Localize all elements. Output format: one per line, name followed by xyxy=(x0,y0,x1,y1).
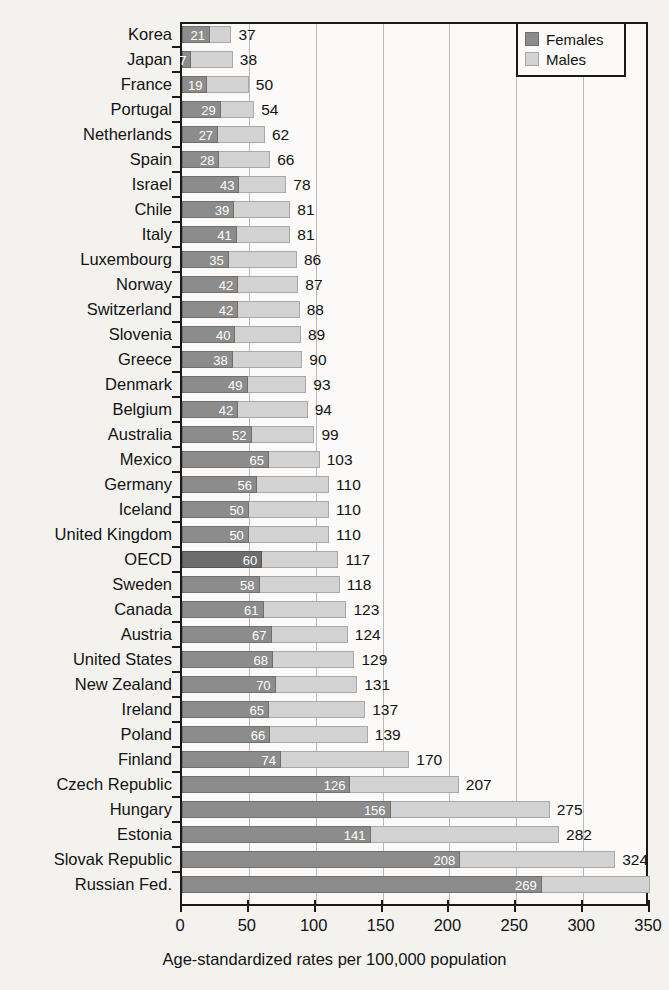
bar-segment-females: 7 xyxy=(182,51,191,68)
females-value-label: 65 xyxy=(249,453,263,466)
total-value-label: 81 xyxy=(297,197,314,222)
females-value-label: 61 xyxy=(244,603,258,616)
bar-row: Portugal2954 xyxy=(0,97,669,122)
females-value-label: 208 xyxy=(433,853,455,866)
category-label: Portugal xyxy=(0,97,172,122)
bar-segment-females: 39 xyxy=(182,201,234,218)
bar-row: Slovenia4089 xyxy=(0,322,669,347)
category-label: United Kingdom xyxy=(0,522,172,547)
stacked-bar: 52 xyxy=(182,426,314,443)
bar-segment-males xyxy=(272,626,348,643)
total-value-label: 282 xyxy=(566,822,592,847)
bar-segment-females: 52 xyxy=(182,426,252,443)
category-label: Belgium xyxy=(0,397,172,422)
bar-segment-females: 28 xyxy=(182,151,219,168)
females-value-label: 29 xyxy=(201,103,215,116)
stacked-bar: 65 xyxy=(182,701,365,718)
x-axis-title: Age-standardized rates per 100,000 popul… xyxy=(0,950,669,969)
legend: Females Males xyxy=(516,22,626,77)
x-axis-tick xyxy=(314,900,316,912)
bar-segment-males xyxy=(219,151,270,168)
total-value-label: 207 xyxy=(466,772,492,797)
category-label: Switzerland xyxy=(0,297,172,322)
category-label: Poland xyxy=(0,722,172,747)
stacked-bar: 70 xyxy=(182,676,357,693)
females-value-label: 27 xyxy=(199,128,213,141)
bar-row: Poland66139 xyxy=(0,722,669,747)
bar-row: Denmark4993 xyxy=(0,372,669,397)
bar-segment-females: 29 xyxy=(182,101,221,118)
bar-row: Czech Republic126207 xyxy=(0,772,669,797)
total-value-label: 170 xyxy=(416,747,442,772)
total-value-label: 66 xyxy=(277,147,294,172)
females-value-label: 41 xyxy=(217,228,231,241)
females-value-label: 269 xyxy=(515,878,537,891)
bar-segment-females: 27 xyxy=(182,126,218,143)
females-value-label: 19 xyxy=(188,78,202,91)
bar-segment-males xyxy=(257,476,329,493)
x-axis: 050100150200250300350 xyxy=(180,906,648,907)
bar-segment-females: 60 xyxy=(182,551,262,568)
bar-segment-females: 40 xyxy=(182,326,235,343)
stacked-bar: 29 xyxy=(182,101,254,118)
bar-segment-females: 41 xyxy=(182,226,237,243)
x-axis-tick xyxy=(247,900,249,912)
bar-segment-females: 65 xyxy=(182,451,269,468)
x-axis-tick-label: 150 xyxy=(367,916,395,935)
bar-segment-females: 38 xyxy=(182,351,233,368)
total-value-label: 103 xyxy=(327,447,353,472)
stacked-bar: 39 xyxy=(182,201,290,218)
females-value-label: 56 xyxy=(237,478,251,491)
bar-segment-females: 269 xyxy=(182,876,542,893)
stacked-bar: 67 xyxy=(182,626,348,643)
category-label: Denmark xyxy=(0,372,172,397)
females-value-label: 52 xyxy=(232,428,246,441)
stacked-bar: 74 xyxy=(182,751,409,768)
x-axis-tick xyxy=(514,900,516,912)
bar-segment-males xyxy=(238,401,308,418)
stacked-bar: 41 xyxy=(182,226,290,243)
bar-row: Netherlands2762 xyxy=(0,122,669,147)
bar-row: New Zealand70131 xyxy=(0,672,669,697)
category-label: France xyxy=(0,72,172,97)
females-value-label: 40 xyxy=(216,328,230,341)
bar-segment-males xyxy=(269,451,320,468)
bar-segment-females: 49 xyxy=(182,376,248,393)
stacked-bar: 58 xyxy=(182,576,340,593)
stacked-bar: 50 xyxy=(182,501,329,518)
females-value-label: 141 xyxy=(344,828,366,841)
total-value-label: 87 xyxy=(305,272,322,297)
females-value-label: 60 xyxy=(243,553,257,566)
stacked-bar: 61 xyxy=(182,601,346,618)
total-value-label: 37 xyxy=(238,22,255,47)
total-value-label: 117 xyxy=(345,547,370,572)
bar-row: Finland74170 xyxy=(0,747,669,772)
category-label: Ireland xyxy=(0,697,172,722)
total-value-label: 118 xyxy=(347,572,372,597)
bar-row: Sweden58118 xyxy=(0,572,669,597)
stacked-bar: 126 xyxy=(182,776,459,793)
bar-row: United Kingdom50110 xyxy=(0,522,669,547)
total-value-label: 110 xyxy=(336,522,361,547)
category-label: Mexico xyxy=(0,447,172,472)
stacked-bar: 42 xyxy=(182,301,300,318)
category-label: Norway xyxy=(0,272,172,297)
bar-segment-females: 141 xyxy=(182,826,371,843)
bar-segment-females: 50 xyxy=(182,501,249,518)
bar-row: Hungary156275 xyxy=(0,797,669,822)
bar-row: Slovak Republic208324 xyxy=(0,847,669,872)
bar-segment-males xyxy=(229,251,297,268)
bar-row: Norway4287 xyxy=(0,272,669,297)
bar-segment-females: 35 xyxy=(182,251,229,268)
total-value-label: 110 xyxy=(336,472,361,497)
stacked-bar: 28 xyxy=(182,151,270,168)
females-swatch xyxy=(525,32,539,46)
bar-segment-males xyxy=(371,826,560,843)
x-axis-tick xyxy=(447,900,449,912)
bar-segment-males xyxy=(350,776,458,793)
stacked-bar: 21 xyxy=(182,26,231,43)
total-value-label: 78 xyxy=(293,172,310,197)
bar-segment-males xyxy=(238,276,298,293)
stacked-bar: 50 xyxy=(182,526,329,543)
category-label: Slovenia xyxy=(0,322,172,347)
